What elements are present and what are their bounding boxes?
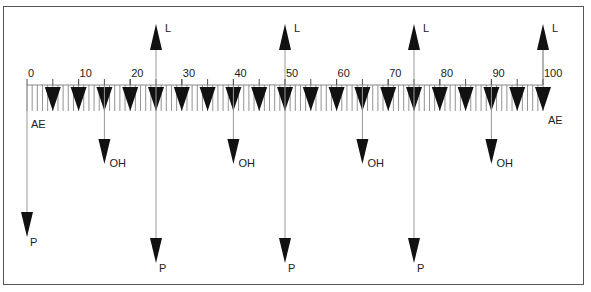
scale-label: 90 [492,67,504,79]
p-arrow-icon [408,238,420,263]
down-arrow-icon [251,87,267,111]
scale-label: 70 [389,67,401,79]
oh-label: OH [109,157,126,169]
p-label: P [288,262,295,274]
ae-label-left: AE [31,118,46,130]
down-arrow-icon [509,87,525,111]
down-arrow-icon [71,87,87,111]
up-arrow-icon [279,24,291,50]
p-arrow-icon [279,238,291,263]
up-arrow-icon [150,24,162,50]
down-arrow-icon [380,87,396,111]
scale-label: 80 [441,67,453,79]
down-arrow-icon [329,87,345,111]
p-arrow-icon [21,212,33,237]
down-arrow-icon [174,87,190,111]
up-arrow-icon [408,24,420,50]
load-diagram: 0102030405060708090100AEAELLLLOHOHOHOHPP… [0,0,591,292]
down-arrow-icon [303,87,319,111]
l-label: L [423,22,429,34]
down-arrow-icon [458,87,474,111]
down-arrow-icon [432,87,448,111]
l-label: L [165,22,171,34]
scale-label: 100 [544,67,562,79]
scale-label: 50 [286,67,298,79]
l-label: L [552,22,558,34]
scale-label: 60 [338,67,350,79]
scale-label: 20 [131,67,143,79]
down-arrow-icon [535,87,551,111]
down-arrow-icon [122,87,138,111]
p-label: P [417,262,424,274]
p-label: P [159,262,166,274]
scale-label: 0 [28,67,34,79]
down-arrow-icon [200,87,216,111]
l-label: L [294,22,300,34]
oh-label: OH [496,157,513,169]
oh-label: OH [238,157,255,169]
down-arrow-icon [45,87,61,111]
p-label: P [30,236,37,248]
up-arrow-icon [537,24,549,50]
scale-label: 40 [234,67,246,79]
ae-label-right: AE [548,114,563,126]
scale-label: 30 [183,67,195,79]
oh-label: OH [367,157,384,169]
scale-label: 10 [80,67,92,79]
p-arrow-icon [150,238,162,263]
